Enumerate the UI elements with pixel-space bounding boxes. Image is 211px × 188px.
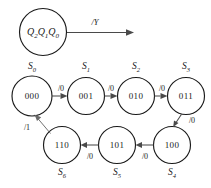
state-name-s4-sub: 4 (173, 172, 176, 179)
output-arrow-head (126, 29, 134, 35)
state-name-s3-sub: 3 (187, 66, 190, 73)
state-code-s2: 010 (129, 91, 144, 101)
state-name-s4: S4 (168, 167, 176, 179)
state-name-s2-sub: 2 (137, 66, 140, 73)
reg-q0-sub: 0 (56, 32, 60, 40)
edge-label-s3-s4: /0 (189, 116, 195, 125)
edge-label-s4-s5: /0 (142, 152, 148, 161)
state-register-text: Q2Q1Q0 (27, 26, 59, 40)
output-label: /Y (91, 17, 98, 27)
edge-s4-s5-head (136, 142, 143, 148)
state-code-s6: 110 (55, 140, 69, 150)
reg-q1: Q (38, 26, 45, 37)
edge-s3-s4-head (173, 121, 178, 128)
state-code-s1: 001 (79, 91, 94, 101)
state-name-s6-sub: 6 (63, 172, 66, 179)
state-diagram-canvas: Q2Q1Q0 /Y 000 001 010 011 100 101 110 S0… (0, 0, 211, 188)
state-code-s5: 101 (110, 140, 125, 150)
state-name-s0-sub: 0 (33, 66, 36, 73)
state-name-s1: S1 (82, 61, 90, 73)
edge-label-s6-s0: /1 (24, 123, 30, 132)
reg-q0: Q (48, 26, 55, 37)
edge-label-s2-s3: /0 (159, 84, 165, 93)
state-code-s4: 100 (165, 140, 180, 150)
edge-s2-s3-head (161, 93, 168, 99)
edge-s0-s1-head (61, 93, 68, 99)
state-name-s5: S5 (113, 167, 121, 179)
state-name-s2: S2 (132, 61, 140, 73)
state-name-s0: S0 (28, 61, 36, 73)
edge-s6-s0-line (37, 118, 51, 134)
edge-label-s5-s6: /0 (87, 152, 93, 161)
state-name-s6: S6 (58, 167, 66, 179)
edge-s3-s4-line (176, 114, 181, 122)
edge-s1-s2-head (111, 93, 118, 99)
state-name-s1-sub: 1 (87, 66, 90, 73)
edge-s5-s6-head (81, 142, 88, 148)
state-code-s0: 000 (25, 91, 40, 101)
edge-label-s0-s1: /0 (58, 84, 64, 93)
state-name-s5-sub: 5 (118, 172, 121, 179)
state-code-s3: 011 (179, 91, 193, 101)
edge-label-s1-s2: /0 (108, 84, 114, 93)
state-name-s3: S3 (182, 61, 190, 73)
